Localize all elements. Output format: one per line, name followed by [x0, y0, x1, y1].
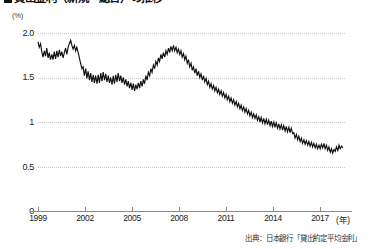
x-tick-2014 [273, 207, 274, 212]
x-tick-1999 [38, 207, 39, 212]
y-axis: 2.0 1.5 1 0.5 0 [0, 0, 34, 249]
y-axis-label-1-0: 1 [4, 117, 34, 127]
x-tick-2008 [179, 207, 180, 212]
source-note: 出典：日本銀行「貸出約定平均金利」 [245, 232, 361, 243]
series-polyline [38, 40, 343, 153]
y-axis-label-1-5: 1.5 [4, 72, 34, 82]
x-tick-2005 [132, 207, 133, 212]
x-tick-2011 [226, 207, 227, 212]
title-text: 貸出金利（新規・総合）の推移 [14, 0, 162, 4]
x-axis-label-2008: 2008 [170, 213, 188, 223]
x-axis-unit-label: (年) [336, 213, 350, 225]
x-tick-2002 [85, 207, 86, 212]
x-axis-label-1999: 1999 [29, 213, 47, 223]
x-axis-label-2002: 2002 [76, 213, 94, 223]
interest-rate-line-series [38, 33, 345, 211]
x-axis-line [30, 211, 352, 212]
plot-area [38, 33, 345, 211]
x-tick-2017 [320, 207, 321, 212]
x-axis-label-2011: 2011 [217, 213, 234, 223]
y-axis-label-2-0: 2.0 [4, 28, 34, 38]
x-axis-label-2014: 2014 [264, 213, 282, 223]
x-axis-label-2017: 2017 [311, 213, 329, 223]
x-axis-label-2005: 2005 [123, 213, 141, 223]
y-axis-label-0-5: 0.5 [4, 162, 34, 172]
